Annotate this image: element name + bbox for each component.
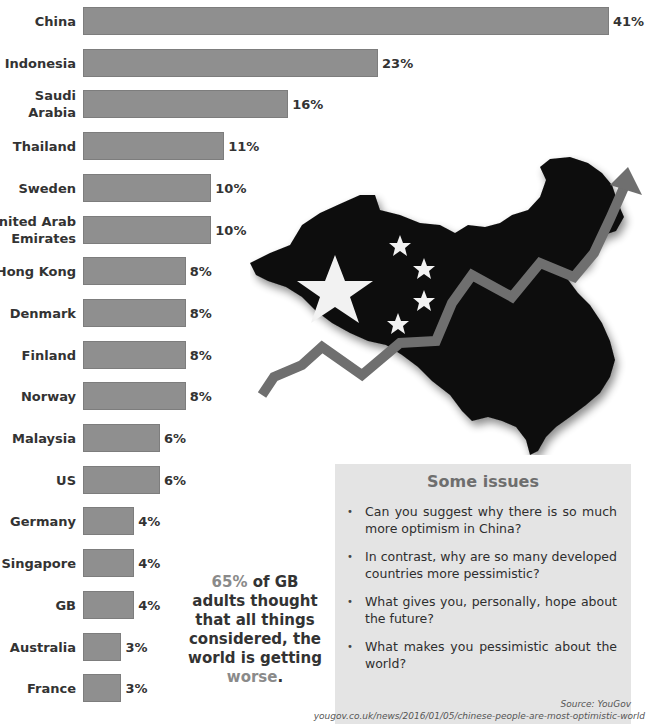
issue-item: What makes you pessimistic about the wor… xyxy=(335,639,631,672)
issue-item: In contrast, why are so many developed c… xyxy=(335,549,631,582)
bar-value: 11% xyxy=(228,139,259,154)
source-attribution: Source: YouGov yougov.co.uk/news/2016/01… xyxy=(314,698,631,722)
bar-label: United ArabEmirates xyxy=(0,213,76,247)
bar-row: China41% xyxy=(0,7,649,35)
bar-label: Finland xyxy=(0,346,76,363)
bar xyxy=(83,549,134,577)
bar-label: Singapore xyxy=(0,555,76,572)
bar xyxy=(83,49,378,77)
bar-value: 41% xyxy=(613,14,644,29)
callout-highlight-word: worse xyxy=(227,668,278,686)
bar xyxy=(83,257,186,285)
bar-value: 16% xyxy=(292,97,323,112)
bar-label: Thailand xyxy=(0,138,76,155)
bar-label: Norway xyxy=(0,388,76,405)
issues-list: Can you suggest why there is so much mor… xyxy=(335,504,631,684)
bar xyxy=(83,299,186,327)
bar-label: Hong Kong xyxy=(0,263,76,280)
bar-value: 4% xyxy=(138,597,160,612)
bar xyxy=(83,174,211,202)
bar-value: 4% xyxy=(138,556,160,571)
source-url: yougov.co.uk/news/2016/01/05/chinese-peo… xyxy=(314,710,645,722)
bar-value: 8% xyxy=(190,305,212,320)
bar xyxy=(83,633,121,661)
bar xyxy=(83,674,121,702)
bar-label: Germany xyxy=(0,513,76,530)
bar xyxy=(83,424,160,452)
bar-row: Saudi Arabia16% xyxy=(0,90,649,118)
bar xyxy=(83,7,609,35)
bar xyxy=(83,90,288,118)
china-map-illustration xyxy=(250,155,649,455)
bar-row: Indonesia23% xyxy=(0,49,649,77)
bar-value: 8% xyxy=(190,347,212,362)
issues-box: Some issues Can you suggest why there is… xyxy=(335,464,631,724)
bar xyxy=(83,341,186,369)
bar xyxy=(83,132,224,160)
bar-value: 8% xyxy=(190,389,212,404)
bar-value: 4% xyxy=(138,514,160,529)
bar-value: 10% xyxy=(215,180,246,195)
bar xyxy=(83,507,134,535)
bar-label: GB xyxy=(0,596,76,613)
bar-value: 10% xyxy=(215,222,246,237)
bar-label: Malaysia xyxy=(0,430,76,447)
bar xyxy=(83,216,211,244)
bar-label: US xyxy=(0,471,76,488)
bar-label: France xyxy=(0,680,76,697)
bar xyxy=(83,382,186,410)
bar-value: 3% xyxy=(125,681,147,696)
issues-title: Some issues xyxy=(335,472,631,491)
callout-highlight-pct: 65% xyxy=(212,573,248,591)
source-label: Source: YouGov xyxy=(314,698,631,710)
bar-label: Sweden xyxy=(0,179,76,196)
issue-item: Can you suggest why there is so much mor… xyxy=(335,504,631,537)
bar-label: Indonesia xyxy=(0,54,76,71)
china-map-shape xyxy=(250,157,624,455)
bar-value: 3% xyxy=(125,639,147,654)
bar-label: Australia xyxy=(0,638,76,655)
bar xyxy=(83,591,134,619)
bar-label: Denmark xyxy=(0,304,76,321)
bar-value: 6% xyxy=(164,472,186,487)
bar xyxy=(83,466,160,494)
bar-value: 23% xyxy=(382,55,413,70)
bar-label: Saudi Arabia xyxy=(0,87,76,121)
gb-pessimism-callout: 65% of GB adults thought that all things… xyxy=(180,573,330,687)
issue-item: What gives you, personally, hope about t… xyxy=(335,594,631,627)
bar-value: 8% xyxy=(190,264,212,279)
bar-value: 6% xyxy=(164,431,186,446)
bar-label: China xyxy=(0,13,76,30)
